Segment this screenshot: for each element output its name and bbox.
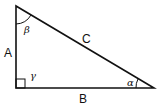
angle-beta-label: β	[23, 24, 30, 35]
right-triangle-diagram: A B C β γ α	[0, 0, 166, 107]
side-c-label: C	[82, 32, 91, 46]
side-a-label: A	[4, 46, 12, 60]
triangle-outline	[16, 6, 154, 88]
angle-gamma-label: γ	[30, 70, 36, 81]
side-b-label: B	[79, 92, 87, 106]
angle-beta-arc	[16, 15, 31, 24]
angle-alpha-arc	[136, 79, 138, 88]
right-angle-marker	[16, 79, 25, 88]
angle-alpha-label: α	[127, 77, 134, 88]
